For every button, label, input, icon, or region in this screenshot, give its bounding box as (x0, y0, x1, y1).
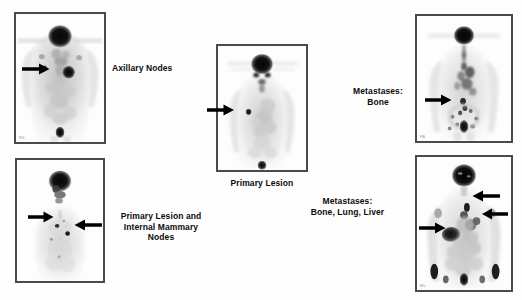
pet-scan-image-axillary (16, 14, 104, 142)
scan-panel-primary-lesion[interactable] (216, 44, 308, 172)
caption-axillary-nodes: Axillary Nodes (112, 63, 207, 74)
scan-panel-metastases-bone[interactable]: P.B. (415, 14, 513, 143)
panel-corner-mark: M.L. (420, 284, 426, 288)
caption-metastases-bone: Metastases: Bone (340, 86, 416, 107)
pet-scan-image-multi-mets (417, 157, 511, 290)
figure-canvas: R.S. Axillary Nodes (0, 0, 522, 300)
pet-scan-image-bone-mets (417, 16, 511, 141)
pet-scan-image-primary-imn (17, 160, 103, 281)
caption-metastases-bone-lung-liver: Metastases: Bone, Lung, Liver (285, 196, 410, 217)
scan-panel-metastases-bone-lung-liver[interactable]: M.L. (415, 155, 513, 292)
scan-panel-primary-lesion-imn[interactable] (15, 158, 105, 283)
panel-corner-mark: R.S. (19, 136, 25, 140)
caption-primary-lesion-imn: Primary Lesion and Internal Mammary Node… (106, 211, 216, 243)
scan-panel-axillary-nodes[interactable]: R.S. (14, 12, 106, 144)
pet-scan-image-primary (218, 46, 306, 170)
caption-primary-lesion: Primary Lesion (212, 178, 312, 189)
panel-corner-mark: P.B. (420, 135, 425, 139)
